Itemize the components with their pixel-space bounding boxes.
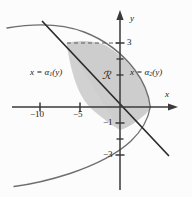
x-axis-arrowhead: [168, 103, 178, 110]
graph-canvas: [0, 0, 192, 197]
curve-label-alpha1-pre: x =: [30, 67, 45, 77]
graph-figure: y x −10 −5 3 −1 −3 x = α1(y) x = α2(y) ℛ: [0, 0, 192, 197]
region-label-R: ℛ: [102, 70, 111, 81]
y-tick-label-3: 3: [127, 38, 132, 47]
x-tick-label--5: −5: [73, 110, 83, 119]
y-tick-label--3: −3: [103, 150, 113, 159]
x-axis-label: x: [165, 90, 169, 99]
curve-label-alpha1-post: (y): [52, 67, 62, 77]
y-tick-label--1: −1: [103, 118, 113, 127]
curve-label-alpha2-post: (y): [152, 67, 162, 77]
curve-label-alpha2: x = α2(y): [130, 68, 162, 77]
y-axis-arrowhead: [116, 10, 123, 20]
curve-label-alpha1: x = α1(y): [30, 68, 62, 77]
boundary-line-alpha1: [43, 22, 169, 156]
curve-label-alpha2-pre: x =: [130, 67, 145, 77]
y-axis-label: y: [130, 14, 134, 23]
x-tick-label--10: −10: [30, 110, 44, 119]
